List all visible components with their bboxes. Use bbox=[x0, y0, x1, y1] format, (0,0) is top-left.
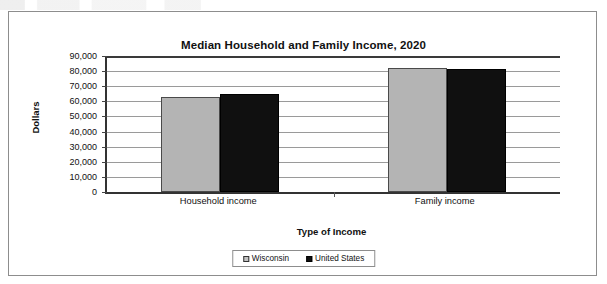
bar-wisconsin-household-income[interactable] bbox=[161, 97, 220, 192]
bar-group bbox=[161, 56, 279, 192]
legend-swatch-icon bbox=[243, 256, 249, 262]
legend-label: United States bbox=[315, 254, 364, 263]
y-tick-label: 0 bbox=[92, 187, 97, 197]
legend-label: Wisconsin bbox=[252, 254, 289, 263]
y-tick-label: 60,000 bbox=[69, 96, 97, 106]
y-tick-label: 10,000 bbox=[69, 172, 97, 182]
legend-swatch-icon bbox=[306, 256, 312, 262]
bar-wisconsin-family-income[interactable] bbox=[388, 68, 447, 192]
x-axis-tick-labels: Household incomeFamily income bbox=[105, 196, 558, 212]
plot-wrapper: Dollars 90,00080,00070,00060,00050,00040… bbox=[9, 12, 598, 277]
y-tick-label: 70,000 bbox=[69, 81, 97, 91]
y-tick-label: 20,000 bbox=[69, 157, 97, 167]
chart-frame: Median Household and Family Income, 2020… bbox=[8, 11, 597, 276]
x-axis-title: Type of Income bbox=[105, 226, 558, 237]
y-tick-label: 50,000 bbox=[69, 111, 97, 121]
bar-group bbox=[388, 56, 506, 192]
plot-area bbox=[105, 56, 560, 194]
y-axis-tick-labels: 90,00080,00070,00060,00050,00040,00030,0… bbox=[47, 56, 101, 192]
y-tick-label: 30,000 bbox=[69, 142, 97, 152]
y-tick-label: 80,000 bbox=[69, 66, 97, 76]
x-tick-label: Household income bbox=[180, 196, 257, 206]
legend-item-united-states[interactable]: United States bbox=[306, 254, 364, 263]
scan-artifact bbox=[0, 0, 607, 10]
legend-item-wisconsin[interactable]: Wisconsin bbox=[243, 254, 289, 263]
bar-united-states-family-income[interactable] bbox=[447, 69, 506, 192]
legend: WisconsinUnited States bbox=[232, 250, 375, 267]
y-tick-mark bbox=[102, 192, 107, 193]
y-tick-label: 40,000 bbox=[69, 127, 97, 137]
y-axis-title: Dollars bbox=[30, 83, 41, 153]
bars-layer bbox=[107, 56, 560, 192]
bar-united-states-household-income[interactable] bbox=[220, 94, 279, 192]
y-tick-label: 90,000 bbox=[69, 51, 97, 61]
x-tick-label: Family income bbox=[415, 196, 475, 206]
